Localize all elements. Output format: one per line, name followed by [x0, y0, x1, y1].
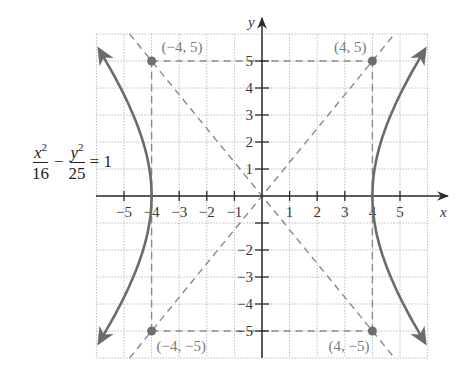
fraction-y: y2 25 — [69, 142, 86, 182]
point-marker — [147, 57, 156, 66]
axes: xy — [96, 14, 448, 358]
point-label: (−4, 5) — [162, 39, 203, 56]
y-tick-label: −3 — [237, 269, 253, 285]
equals-one: = 1 — [90, 152, 112, 172]
y-tick-label: 3 — [246, 107, 254, 123]
hyperbola-graph: xy −5−4−3−2−112345−5−4−3−212345 (−4, 5)(… — [0, 0, 475, 376]
equation-label: x2 16 − y2 25 = 1 — [32, 142, 112, 182]
point-label: (4, 5) — [334, 39, 367, 56]
y-tick-label: 2 — [246, 134, 254, 150]
x-tick-label: 5 — [396, 204, 404, 220]
fraction-x: x2 16 — [32, 142, 49, 182]
y-axis-label: y — [246, 14, 255, 30]
x-tick-label: 2 — [313, 204, 321, 220]
x-tick-label: −1 — [226, 204, 242, 220]
minus-sign: − — [54, 152, 64, 172]
x-axis-label: x — [439, 204, 447, 220]
y-tick-label: −2 — [237, 242, 253, 258]
y-tick-label: 4 — [246, 80, 254, 96]
x-tick-label: −3 — [171, 204, 187, 220]
point-marker — [147, 327, 156, 336]
x-tick-label: 1 — [286, 204, 294, 220]
point-marker — [368, 57, 377, 66]
y-tick-label: −5 — [237, 323, 253, 339]
point-marker — [368, 327, 377, 336]
y-tick-label: −4 — [237, 296, 253, 312]
point-label: (4, −5) — [328, 338, 369, 355]
point-label: (−4, −5) — [157, 338, 206, 355]
y-tick-label: 5 — [246, 53, 254, 69]
x-tick-label: 3 — [341, 204, 349, 220]
y-tick-label: 1 — [246, 161, 254, 177]
x-tick-label: −2 — [199, 204, 215, 220]
x-tick-label: −5 — [116, 204, 132, 220]
